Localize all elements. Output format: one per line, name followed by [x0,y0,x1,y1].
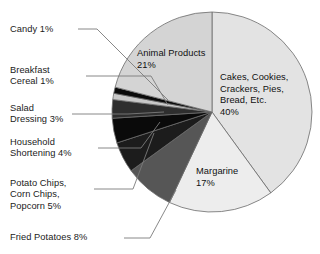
slice-label-salad-dressing: Salad Dressing 3% [10,103,63,126]
slice-label-fried-potatoes: Fried Potatoes 8% [10,232,87,243]
slice-label-candy: Candy 1% [10,24,53,35]
slice-label-breakfast-cereal: Breakfast Cereal 1% [10,65,54,88]
slice-label-cakes: Cakes, Cookies, Crackers, Pies, Bread, E… [220,72,288,118]
slice-label-household-shortening: Household Shortening 4% [10,137,72,160]
slice-label-margarine: Margarine 17% [196,166,238,189]
pie-chart-graphic [0,0,320,254]
pie-chart-figure: Cakes, Cookies, Crackers, Pies, Bread, E… [0,0,320,254]
slice-label-potato-chips: Potato Chips, Corn Chips, Popcorn 5% [10,178,66,212]
slice-label-animal-products: Animal Products 21% [137,48,205,71]
